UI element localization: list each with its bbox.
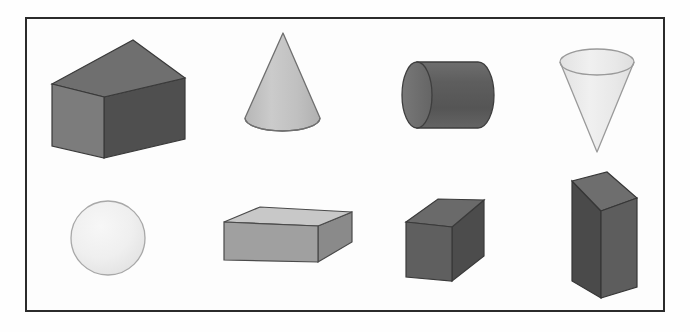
shape-cone-upright <box>245 33 320 131</box>
shape-sphere <box>71 201 145 275</box>
figure-canvas: Rectangular prism Cone Cylinder Inverted… <box>0 0 690 332</box>
shape-rectangular-slab <box>224 207 352 262</box>
shape-rectangular-prism-horizontal <box>52 40 185 158</box>
shape-cube <box>406 199 484 281</box>
shape-rectangular-prism-vertical <box>572 172 637 298</box>
geometric-solids-illustration <box>0 0 690 332</box>
shape-cylinder-horizontal <box>402 62 494 128</box>
shape-cone-inverted <box>560 49 634 152</box>
